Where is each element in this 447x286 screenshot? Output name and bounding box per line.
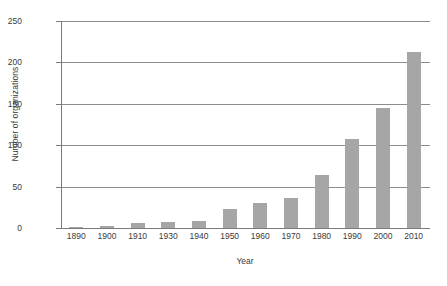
y-tick-label: 250 <box>0 16 22 26</box>
bar[interactable] <box>315 175 329 228</box>
bar[interactable] <box>100 226 114 228</box>
bar[interactable] <box>284 198 298 228</box>
x-tick-label: 2010 <box>394 231 434 241</box>
y-tick-label: 200 <box>0 57 22 67</box>
bar-slot <box>276 21 307 228</box>
bars-layer <box>61 21 429 228</box>
bar-slot <box>398 21 429 228</box>
y-tick-label: 50 <box>0 182 22 192</box>
y-tick-label: 100 <box>0 140 22 150</box>
bar-slot <box>184 21 215 228</box>
bar[interactable] <box>253 203 267 228</box>
bar-slot <box>306 21 337 228</box>
bar-slot <box>368 21 399 228</box>
bar[interactable] <box>376 108 390 228</box>
bar[interactable] <box>223 209 237 228</box>
y-tick-label: 150 <box>0 99 22 109</box>
bar-slot <box>337 21 368 228</box>
bar-slot <box>122 21 153 228</box>
bar-slot <box>153 21 184 228</box>
x-axis-title: Year <box>61 256 429 266</box>
bar[interactable] <box>161 222 175 228</box>
bar[interactable] <box>407 52 421 228</box>
bar[interactable] <box>69 227 83 228</box>
bar[interactable] <box>131 223 145 228</box>
bar-slot <box>245 21 276 228</box>
bar-slot <box>61 21 92 228</box>
bar-slot <box>92 21 123 228</box>
y-tick-label: 0 <box>0 223 22 233</box>
bar-slot <box>214 21 245 228</box>
bar[interactable] <box>345 139 359 228</box>
bar-chart: Number of organizations 050100150200250 … <box>0 0 447 286</box>
x-axis-tick-labels: 1890190019101930194019501960197019801990… <box>61 231 429 247</box>
bar[interactable] <box>192 221 206 228</box>
y-axis-title: Number of organizations <box>6 0 24 228</box>
